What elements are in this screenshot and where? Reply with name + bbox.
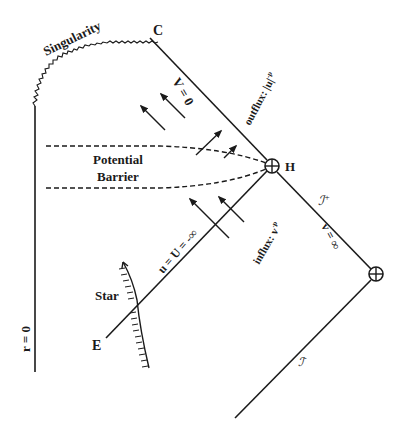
arrow-icon bbox=[190, 199, 199, 208]
star-label: Star bbox=[95, 288, 119, 303]
arrow-icon bbox=[199, 208, 229, 238]
svg-text:influx: v-p: influx: v-p bbox=[249, 220, 283, 266]
scri-minus-superscript: - bbox=[304, 354, 307, 363]
horizon-label: H bbox=[285, 159, 295, 174]
event-e-label: E bbox=[92, 338, 101, 353]
penrose-diagram: Singularity C V = 0 outflux: |u|-p Poten… bbox=[0, 0, 402, 442]
r-zero-label: r = 0 bbox=[18, 326, 33, 352]
horizon-point-icon bbox=[265, 159, 279, 173]
v-zero-line bbox=[150, 38, 267, 160]
outflux-label: outflux: |u| bbox=[241, 76, 276, 127]
scri-plus-line bbox=[277, 172, 371, 269]
barrier-bottom-dashed bbox=[46, 169, 266, 188]
arrow-icon bbox=[219, 197, 229, 207]
svg-text:ℐ+: ℐ+ bbox=[318, 192, 330, 208]
arrow-icon bbox=[141, 106, 165, 130]
scri-minus-line bbox=[235, 280, 371, 418]
corner-c-label: C bbox=[153, 23, 163, 38]
influx-label: influx: v bbox=[250, 225, 280, 266]
svg-text:ℐ-: ℐ- bbox=[298, 354, 307, 369]
potential-label: Potential bbox=[93, 152, 143, 167]
spatial-infinity-point-icon bbox=[369, 267, 383, 281]
svg-text:outflux: |u|-p: outflux: |u|-p bbox=[240, 70, 278, 127]
u-line-label: u = U = -∞ bbox=[155, 226, 201, 276]
v-zero-label: V = 0 bbox=[169, 75, 197, 108]
arrow-icon bbox=[229, 207, 244, 222]
barrier-label: Barrier bbox=[97, 169, 139, 184]
star-surface bbox=[119, 262, 149, 368]
v-infinity-label: v = ∞ bbox=[318, 221, 343, 252]
scri-plus-superscript: + bbox=[324, 192, 330, 202]
